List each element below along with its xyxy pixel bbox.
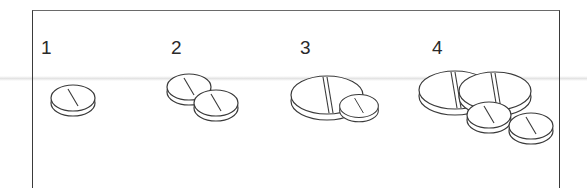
- group-1-pills: [51, 85, 95, 116]
- pill-icon: [340, 95, 379, 122]
- group-4-pills: [419, 71, 553, 144]
- group-2-pills: [167, 74, 238, 121]
- group-3-pills: [291, 76, 378, 122]
- pills-illustration: [0, 0, 587, 188]
- pill-icon: [194, 90, 238, 121]
- pill-icon: [509, 113, 553, 144]
- pill-icon: [51, 85, 95, 116]
- pill-icon: [467, 102, 511, 133]
